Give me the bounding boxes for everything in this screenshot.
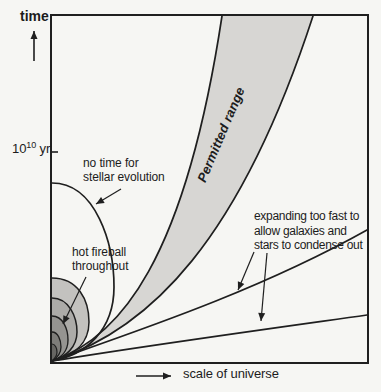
annotation-no-time-line2: stellar evolution	[83, 170, 165, 184]
annotation-hot-fireball-line1: hot fireball	[72, 245, 128, 259]
annotation-no-time: no time for stellar evolution	[83, 156, 165, 184]
tick-exponent: 10	[26, 140, 36, 150]
annotation-hot-fireball: hot fireball throughout	[72, 245, 128, 273]
annotation-no-time-line1: no time for	[83, 156, 165, 170]
annotation-expanding-line3: stars to condense out	[254, 238, 362, 253]
annotation-expanding-line1: expanding too fast to	[254, 209, 362, 224]
tick-unit: yr	[40, 141, 51, 156]
tick-base: 10	[12, 141, 26, 156]
no-time-pointer-arrow	[96, 189, 121, 204]
figure-canvas	[0, 0, 381, 392]
expanding-pointer-arrow-1	[238, 252, 254, 290]
cosmology-figure: time 1010 yr no time for stellar evoluti…	[0, 0, 381, 392]
x-axis-title: scale of universe	[183, 366, 279, 381]
annotation-hot-fireball-line2: throughout	[72, 259, 128, 273]
annotation-expanding-line2: allow galaxies and	[254, 224, 362, 239]
y-axis-tick-label: 1010 yr	[12, 140, 50, 156]
y-axis-title: time	[20, 8, 49, 24]
expanding-pointer-arrow-2	[261, 253, 267, 321]
annotation-expanding: expanding too fast to allow galaxies and…	[254, 209, 362, 253]
